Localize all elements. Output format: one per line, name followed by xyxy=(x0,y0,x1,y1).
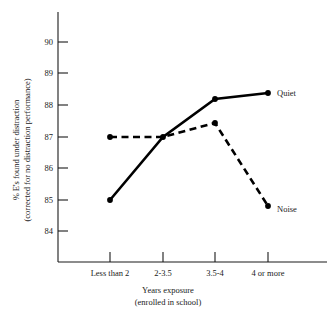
series-quiet-point-3 xyxy=(265,90,271,96)
x-tick-label-2: 3.5-4 xyxy=(206,268,224,278)
y-tick-label-86: 86 xyxy=(45,163,54,173)
y-tick-label-89: 89 xyxy=(45,68,54,78)
x-axis-label: Years exposure (enrolled in school) xyxy=(135,285,202,307)
series-quiet-line xyxy=(110,93,268,200)
series-noise-line xyxy=(110,123,268,206)
chart-figure: % E's found under distraction (corrected… xyxy=(0,0,330,316)
series-quiet-point-0 xyxy=(107,197,113,203)
x-tick-label-0: Less than 2 xyxy=(91,268,130,278)
y-tick-label-85: 85 xyxy=(45,195,54,205)
y-tick-marks xyxy=(58,42,68,231)
series-noise-point-0 xyxy=(107,134,113,140)
x-tick-label-3: 4 or more xyxy=(251,268,284,278)
series-noise xyxy=(107,120,271,209)
series-quiet xyxy=(107,90,271,203)
series-noise-point-3 xyxy=(265,203,271,209)
series-noise-point-2 xyxy=(212,120,218,126)
x-axis-label-line1: Years exposure xyxy=(142,285,194,295)
y-axis-label-line1: % E's found under distraction xyxy=(11,99,21,200)
y-tick-label-84: 84 xyxy=(45,226,54,236)
series-quiet-point-2 xyxy=(212,96,218,102)
x-axis-label-line2: (enrolled in school) xyxy=(135,297,202,307)
legend-label-noise: Noise xyxy=(277,204,297,214)
axis-frame xyxy=(58,12,327,262)
x-tick-labels: Less than 2 2-3.5 3.5-4 4 or more xyxy=(91,268,285,278)
legend-label-quiet: Quiet xyxy=(277,88,297,98)
y-tick-labels: 90 89 88 87 86 85 84 xyxy=(45,37,54,236)
legend: Quiet Noise xyxy=(277,88,297,214)
y-tick-label-88: 88 xyxy=(45,100,54,110)
y-tick-label-87: 87 xyxy=(45,132,54,142)
x-tick-marks xyxy=(110,252,268,262)
y-axis-label: % E's found under distraction (corrected… xyxy=(11,78,32,221)
line-chart: % E's found under distraction (corrected… xyxy=(0,0,330,316)
y-axis-label-line2: (corrected for no distraction performanc… xyxy=(22,78,32,221)
y-tick-label-90: 90 xyxy=(45,37,54,47)
x-tick-label-1: 2-3.5 xyxy=(154,268,172,278)
